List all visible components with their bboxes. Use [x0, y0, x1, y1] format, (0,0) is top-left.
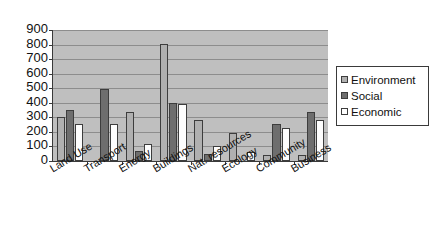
y-tick-label: 900 [6, 22, 48, 35]
legend-label: Economic [351, 106, 402, 118]
y-tick-label: 200 [6, 124, 48, 137]
legend-item-economic[interactable]: Economic [341, 104, 424, 119]
legend-swatch-social-icon [341, 92, 348, 99]
bar-group [156, 30, 190, 161]
y-tick-label: 700 [6, 51, 48, 64]
y-tick-label: 600 [6, 66, 48, 79]
legend-item-social[interactable]: Social [341, 88, 424, 103]
legend-items: EnvironmentSocialEconomic [341, 72, 424, 119]
legend-swatch-environment-icon [341, 76, 348, 83]
chart-legend: EnvironmentSocialEconomic [336, 66, 429, 126]
bar-buildings-environment [160, 44, 168, 161]
y-tick-label: 400 [6, 95, 48, 108]
legend-item-environment[interactable]: Environment [341, 72, 424, 87]
y-tick-label: 300 [6, 109, 48, 122]
y-tick-label: 500 [6, 80, 48, 93]
y-tick-label: 0 [6, 153, 48, 166]
x-axis-category-labels: Land UseTransportEnergyBuildingsNat. res… [52, 163, 342, 223]
bar-group [122, 30, 156, 161]
y-axis: 9008007006005004003002001000 [6, 29, 48, 160]
legend-label: Environment [351, 74, 416, 86]
bar-group [53, 30, 87, 161]
bar-group [259, 30, 293, 161]
y-tick-label: 100 [6, 138, 48, 151]
bar-chart: 9008007006005004003002001000 Land UseTra… [0, 0, 439, 252]
y-tick-label: 800 [6, 37, 48, 50]
legend-swatch-economic-icon [341, 108, 348, 115]
legend-label: Social [351, 90, 382, 102]
bar-group [87, 30, 121, 161]
bar-group [191, 30, 225, 161]
